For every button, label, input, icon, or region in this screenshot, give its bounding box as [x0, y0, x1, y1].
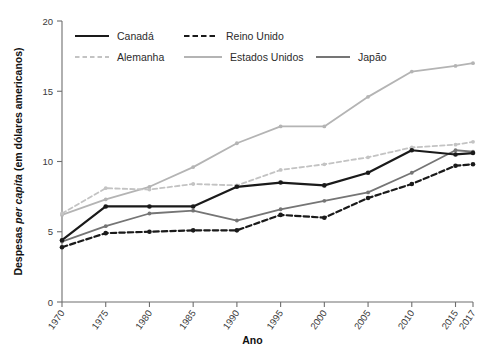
x-tick-label: 1970: [46, 308, 67, 332]
series-line-japão: [62, 150, 473, 241]
data-point: [235, 141, 239, 145]
data-point: [471, 151, 476, 156]
data-point: [410, 70, 414, 74]
x-tick-label: 2000: [308, 308, 329, 332]
y-tick-label: 15: [42, 86, 53, 97]
x-tick-label: 2017: [457, 308, 478, 332]
legend-label: Japão: [358, 51, 387, 63]
x-tick-label: 2015: [439, 308, 460, 332]
data-point: [279, 168, 283, 172]
legend-label: Estados Unidos: [230, 51, 304, 63]
data-point: [453, 152, 458, 157]
data-point: [279, 207, 283, 211]
data-point: [453, 163, 458, 168]
chart-legend: CanadáReino UnidoAlemanhaEstados UnidosJ…: [75, 30, 387, 63]
y-axis-title: Despesas per capita (em dólares american…: [12, 47, 24, 275]
data-point: [454, 148, 458, 152]
y-axis-title-part2: (em dólares americanos): [12, 47, 24, 174]
data-point: [322, 199, 326, 203]
data-point: [366, 191, 370, 195]
data-point: [104, 186, 108, 190]
axes-group: [62, 21, 473, 302]
chart-canvas: 05101520 1970197519801985199019952000200…: [0, 0, 493, 350]
data-point: [366, 95, 370, 99]
data-point: [191, 165, 195, 169]
x-tick-label: 2010: [395, 308, 416, 332]
legend-item-reino-unido[interactable]: Reino Unido: [184, 30, 284, 42]
series-line-alemanha: [62, 142, 473, 214]
data-point: [454, 64, 458, 68]
data-point: [60, 212, 64, 216]
data-point: [454, 143, 458, 147]
data-point: [279, 124, 283, 128]
data-point: [235, 219, 239, 223]
data-point: [104, 224, 108, 228]
data-point: [278, 213, 283, 218]
data-point: [278, 180, 283, 185]
data-point: [366, 155, 370, 159]
x-tick-label: 1995: [264, 308, 285, 332]
legend-label: Canadá: [117, 30, 154, 42]
legend-label: Reino Unido: [226, 30, 284, 42]
data-point: [191, 182, 195, 186]
y-axis-title-part1: Despesas: [12, 224, 24, 276]
x-axis-title: Ano: [242, 334, 262, 346]
x-tick-label: 1985: [177, 308, 198, 332]
data-point: [191, 228, 196, 233]
y-tick-label: 20: [42, 16, 53, 27]
data-point: [471, 140, 475, 144]
legend-label: Alemanha: [117, 51, 164, 63]
data-point: [366, 170, 371, 175]
data-point: [235, 228, 240, 233]
x-tick-label: 1980: [133, 308, 154, 332]
y-axis-ticks: 05101520: [42, 16, 62, 308]
data-point: [103, 204, 108, 209]
data-point: [471, 162, 476, 167]
legend-item-estados-unidos[interactable]: Estados Unidos: [184, 51, 304, 63]
data-point: [471, 61, 475, 65]
data-point: [148, 188, 152, 192]
data-point: [322, 124, 326, 128]
series-group: [60, 61, 476, 249]
data-point: [147, 204, 152, 209]
y-tick-label: 10: [42, 156, 53, 167]
data-point: [191, 209, 195, 213]
y-tick-label: 5: [48, 226, 53, 237]
x-tick-label: 1975: [89, 308, 110, 332]
y-axis-title-italic: per capita: [12, 174, 24, 225]
data-point: [409, 182, 414, 187]
data-point: [147, 229, 152, 234]
line-chart: 05101520 1970197519801985199019952000200…: [0, 0, 493, 350]
data-point: [235, 184, 240, 189]
data-point: [322, 162, 326, 166]
x-axis-ticks: 1970197519801985199019952000200520102015…: [46, 302, 478, 331]
y-tick-label: 0: [48, 297, 53, 308]
series-line-canadá: [62, 150, 473, 240]
data-point: [409, 148, 414, 153]
data-point: [322, 183, 327, 188]
legend-item-canadá[interactable]: Canadá: [75, 30, 154, 42]
data-point: [366, 196, 371, 201]
legend-item-japão[interactable]: Japão: [316, 51, 387, 63]
data-point: [148, 212, 152, 216]
x-tick-label: 2005: [352, 308, 373, 332]
data-point: [410, 171, 414, 175]
data-point: [191, 204, 196, 209]
data-point: [322, 215, 327, 220]
legend-item-alemanha[interactable]: Alemanha: [75, 51, 164, 63]
data-point: [103, 231, 108, 236]
data-point: [60, 238, 65, 243]
series-line-estados-unidos: [62, 63, 473, 215]
data-point: [104, 198, 108, 202]
x-tick-label: 1990: [220, 308, 241, 332]
data-point: [60, 245, 65, 250]
